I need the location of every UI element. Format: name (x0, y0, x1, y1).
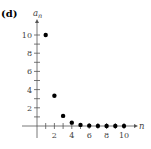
axes (22, 19, 138, 138)
x-tick-label: 4 (69, 131, 74, 140)
x-tick-label: 8 (104, 131, 109, 140)
y-tick-label: 6 (27, 67, 32, 76)
data-point (44, 33, 48, 37)
x-tick-label: 10 (119, 131, 129, 140)
y-tick-label: 8 (27, 49, 32, 58)
sequence-scatter-chart: (d) 246810246810 an n (0, 0, 151, 149)
data-point (122, 124, 126, 128)
data-point (104, 124, 108, 128)
data-point (87, 123, 91, 127)
tick-labels: 246810246810 (22, 31, 129, 140)
y-axis-label: an (33, 8, 42, 20)
x-axis-arrow-icon (134, 124, 138, 128)
data-point (52, 93, 56, 97)
x-tick-label: 6 (87, 131, 92, 140)
data-point (70, 120, 74, 124)
data-point (113, 124, 117, 128)
data-point (96, 124, 100, 128)
y-tick-label: 10 (22, 31, 32, 40)
y-tick-label: 4 (27, 86, 32, 95)
ticks (34, 35, 124, 129)
data-point (61, 114, 65, 118)
data-point (78, 123, 82, 127)
x-axis-label: n (139, 121, 144, 131)
y-tick-label: 2 (27, 104, 32, 113)
panel-label: (d) (1, 8, 17, 19)
x-tick-label: 2 (52, 131, 57, 140)
data-points (44, 33, 127, 128)
